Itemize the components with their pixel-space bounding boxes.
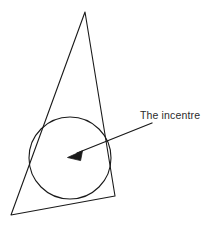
diagram-canvas: The incentre bbox=[0, 0, 208, 227]
incentre-diagram: The incentre bbox=[0, 0, 208, 227]
incentre-label: The incentre bbox=[140, 109, 200, 121]
